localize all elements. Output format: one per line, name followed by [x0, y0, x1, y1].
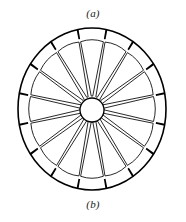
petal-gap-wedge [19, 92, 28, 96]
chrysanthemum-emblem [0, 22, 186, 194]
petal-gap-wedge [77, 179, 81, 189]
petal-gap-wedge [30, 148, 38, 155]
chrysanthemum-emblem-svg [0, 22, 186, 194]
center-circle [80, 98, 104, 122]
petal-gap-wedge [104, 179, 108, 189]
petal-gap-wedge [156, 122, 165, 126]
figure-caption-bottom: (b) [0, 199, 186, 210]
petal-gap-wedge [30, 63, 38, 70]
petal-gap-wedge [19, 122, 28, 126]
petal-gap-wedge [77, 29, 81, 39]
petal-gap-wedge [146, 148, 154, 155]
figure-caption-top: (a) [0, 8, 186, 19]
petal-gap-wedge [146, 63, 154, 70]
petal-gap-wedge [156, 92, 165, 96]
petal-gap-wedge [104, 29, 108, 39]
figure-panel: (a) (b) [0, 0, 186, 222]
